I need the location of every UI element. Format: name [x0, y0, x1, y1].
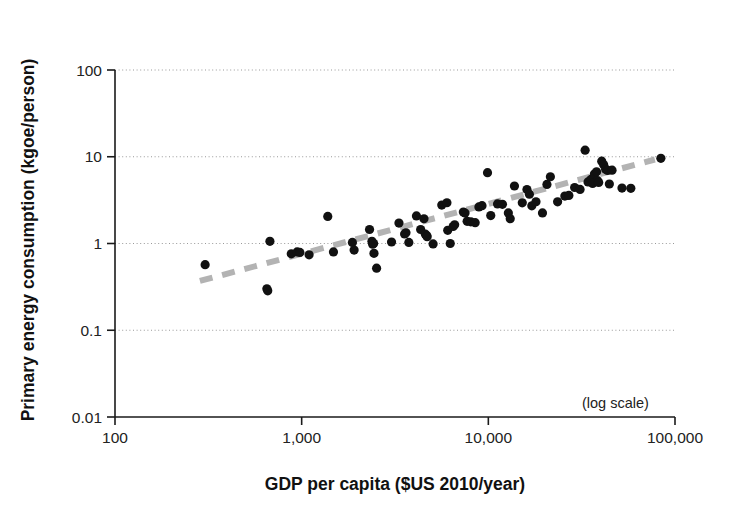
data-point: [350, 245, 359, 254]
data-point: [486, 211, 495, 220]
data-point: [387, 237, 396, 246]
y-tick-label-1: 1: [93, 235, 102, 252]
x-tick-label-10,000: 10,000: [465, 429, 513, 446]
y-tick-label-10: 10: [85, 148, 103, 165]
data-point: [656, 154, 665, 163]
data-point: [369, 249, 378, 258]
data-point: [304, 250, 313, 259]
y-tick-label-0.1: 0.1: [80, 322, 102, 339]
data-point: [442, 198, 451, 207]
data-point: [329, 247, 338, 256]
data-point: [498, 200, 507, 209]
data-point: [460, 209, 469, 218]
y-tick-label-100: 100: [76, 62, 102, 79]
data-point: [369, 239, 378, 248]
data-point: [546, 172, 555, 181]
data-point: [323, 212, 332, 221]
y-tick-label-0.01: 0.01: [72, 409, 102, 426]
data-point: [581, 146, 590, 155]
data-point: [471, 218, 480, 227]
data-point: [510, 181, 519, 190]
data-point: [564, 191, 573, 200]
data-point: [553, 197, 562, 206]
chart-canvas: 1001010.10.01 1001,00010,000100,000 (log…: [0, 0, 743, 515]
data-point: [295, 248, 304, 257]
data-point: [429, 239, 438, 248]
data-point: [531, 197, 540, 206]
data-point: [626, 184, 635, 193]
data-point: [423, 232, 432, 241]
scatter-chart-figure: 1001010.10.01 1001,00010,000100,000 (log…: [0, 0, 743, 515]
data-point: [263, 286, 272, 295]
data-point: [401, 228, 410, 237]
data-point: [483, 168, 492, 177]
log-scale-annotation: (log scale): [582, 395, 649, 411]
data-point: [372, 264, 381, 273]
data-point: [265, 237, 274, 246]
data-point: [446, 239, 455, 248]
data-point: [404, 238, 413, 247]
data-point: [525, 190, 534, 199]
x-tick-label-1,000: 1,000: [282, 429, 321, 446]
x-tick-label-100: 100: [102, 429, 128, 446]
x-tick-label-100,000: 100,000: [647, 429, 703, 446]
data-point: [201, 260, 210, 269]
data-point: [518, 198, 527, 207]
data-point: [592, 167, 601, 176]
data-point: [617, 184, 626, 193]
data-point: [477, 201, 486, 210]
data-point: [365, 225, 374, 234]
data-point: [575, 185, 584, 194]
data-point: [538, 208, 547, 217]
data-point: [607, 166, 616, 175]
y-axis-title: Primary energy consumption (kgoe/person): [18, 59, 38, 422]
data-point: [348, 238, 357, 247]
data-point: [394, 218, 403, 227]
data-point: [419, 214, 428, 223]
x-axis-title: GDP per capita ($US 2010/year): [265, 474, 525, 494]
data-point: [506, 214, 515, 223]
data-point: [594, 178, 603, 187]
data-point: [450, 220, 459, 229]
data-point: [605, 179, 614, 188]
